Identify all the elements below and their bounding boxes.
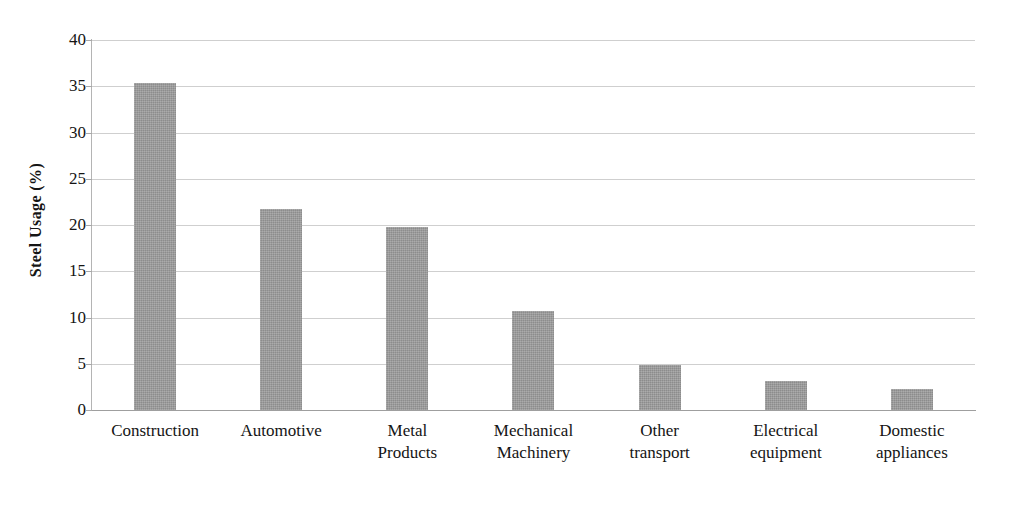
x-tick-label-line: Mechanical xyxy=(470,420,596,442)
x-tick-label-line: Metal xyxy=(344,420,470,442)
y-tick-mark xyxy=(86,40,92,41)
bar-band xyxy=(344,40,470,410)
bar[interactable] xyxy=(134,83,176,410)
x-tick-label: MetalProducts xyxy=(344,420,470,464)
x-tick-label-line: Other xyxy=(597,420,723,442)
x-tick-label: Othertransport xyxy=(597,420,723,464)
bar[interactable] xyxy=(386,227,428,410)
gridline xyxy=(92,410,975,411)
y-tick-label: 40 xyxy=(36,31,86,48)
x-tick-label-line: Products xyxy=(344,442,470,464)
y-tick-label: 20 xyxy=(36,216,86,233)
y-tick-mark xyxy=(86,133,92,134)
y-tick-label: 25 xyxy=(36,170,86,187)
x-tick-label-line: transport xyxy=(597,442,723,464)
x-tick-label-line: equipment xyxy=(723,442,849,464)
y-tick-label: 0 xyxy=(36,401,86,418)
bar[interactable] xyxy=(891,389,933,410)
y-tick-mark xyxy=(86,271,92,272)
x-tick-label-line: Automotive xyxy=(218,420,344,442)
y-tick-label: 30 xyxy=(36,124,86,141)
y-tick-mark xyxy=(86,225,92,226)
x-tick-label-line: Electrical xyxy=(723,420,849,442)
bar[interactable] xyxy=(260,209,302,410)
x-tick-label-line: Machinery xyxy=(470,442,596,464)
x-tick-label: Construction xyxy=(92,420,218,442)
bar-band xyxy=(470,40,596,410)
x-axis-tick-labels: ConstructionAutomotiveMetalProductsMecha… xyxy=(92,420,975,500)
bar-band xyxy=(723,40,849,410)
bar[interactable] xyxy=(639,365,681,410)
x-tick-label: Electricalequipment xyxy=(723,420,849,464)
bar-band xyxy=(218,40,344,410)
y-axis-tick-labels: 4035302520151050 xyxy=(20,0,86,505)
x-tick-label-line: appliances xyxy=(849,442,975,464)
y-tick-mark xyxy=(86,318,92,319)
x-tick-label-line: Construction xyxy=(92,420,218,442)
y-tick-label: 15 xyxy=(36,262,86,279)
bar-chart-figure: Steel Usage (%) 4035302520151050 Constru… xyxy=(0,0,1014,505)
y-tick-label: 5 xyxy=(36,355,86,372)
x-tick-label: Automotive xyxy=(218,420,344,442)
bar-band xyxy=(597,40,723,410)
bar-band xyxy=(92,40,218,410)
x-tick-label-line: Domestic xyxy=(849,420,975,442)
x-tick-label: Domesticappliances xyxy=(849,420,975,464)
bar[interactable] xyxy=(765,381,807,410)
x-tick-label: MechanicalMachinery xyxy=(470,420,596,464)
y-tick-mark xyxy=(86,364,92,365)
y-tick-mark xyxy=(86,179,92,180)
y-tick-mark xyxy=(86,410,92,411)
y-tick-label: 35 xyxy=(36,77,86,94)
plot-area xyxy=(92,40,975,410)
y-tick-mark xyxy=(86,86,92,87)
y-tick-label: 10 xyxy=(36,309,86,326)
bar[interactable] xyxy=(512,311,554,410)
bar-band xyxy=(849,40,975,410)
